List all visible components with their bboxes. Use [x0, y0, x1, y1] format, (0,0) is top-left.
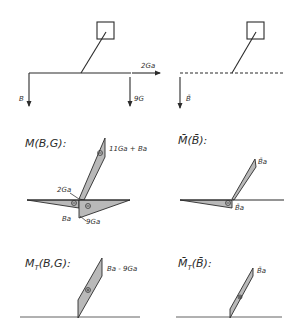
torsion-diagram-real: MT(B,G): Ba - 9Ga	[20, 257, 140, 318]
label-11ga-ba: 11Ga + Ba	[109, 145, 147, 153]
diagram-canvas: B 9G 2Ga B̄ M(B,G): 11Ga + Ba 2Ga Ba 9Ga	[0, 0, 306, 318]
label-ba-9ga: Ba - 9Ga	[107, 265, 137, 273]
inclined-arm	[81, 32, 106, 73]
torsion-unit-title: M̄T(B̄):	[178, 257, 212, 272]
moment-unit-title: M̄(B̄):	[178, 134, 207, 147]
label-ba-bar-top: B̄a	[258, 157, 267, 166]
label-ba-bar-joint: B̄a	[235, 203, 244, 212]
label-9ga: 9Ga	[86, 218, 100, 226]
moment-real-title: M(B,G):	[25, 137, 66, 150]
label-ba: Ba	[62, 215, 71, 223]
load-frame-unit: B̄	[180, 22, 284, 108]
label-2ga: 2Ga	[57, 186, 71, 194]
moment-diagram-real: M(B,G): 11Ga + Ba 2Ga Ba 9Ga	[25, 137, 147, 226]
label-ba-bar-torsion: B̄a	[257, 266, 266, 275]
torsion-diagram-unit: M̄T(B̄): B̄a	[176, 257, 282, 318]
arm-moment-area	[79, 138, 105, 200]
force-label-9g: 9G	[134, 95, 144, 103]
leader-2ga	[70, 193, 79, 199]
left-moment-area	[27, 200, 79, 208]
moment-diagram-unit: M̄(B̄): B̄a B̄a	[178, 134, 284, 212]
box-support	[97, 22, 114, 39]
torsion-area-unit	[230, 268, 253, 318]
torsion-real-title: MT(B,G):	[25, 257, 71, 272]
right-moment-area	[79, 200, 130, 218]
arm-moment-area-unit	[232, 159, 256, 200]
force-label-2ga: 2Ga	[141, 62, 155, 70]
force-label-b-bar: B̄	[186, 94, 191, 103]
load-frame-real: B 9G 2Ga	[19, 22, 160, 106]
force-label-b: B	[19, 95, 24, 103]
left-moment-area-unit	[180, 200, 232, 208]
box-support-unit	[247, 22, 264, 39]
inclined-arm-unit	[232, 32, 256, 73]
